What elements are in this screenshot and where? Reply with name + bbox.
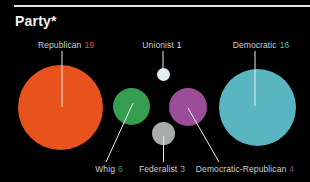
party-name: Federalist [139,164,177,174]
party-bubble-chart: Party* Republican19 Unionist1 Democratic… [0,0,310,182]
label-democratic-republican: Democratic-Republican4 [196,164,294,174]
label-republican: Republican19 [38,40,94,50]
party-name: Democratic [233,40,277,50]
label-whig: Whig6 [95,164,123,174]
top-rule [14,5,310,7]
party-count: 1 [177,40,182,50]
party-count: 4 [289,164,294,174]
bubble-unionist [157,68,170,81]
bubble-federalist [152,122,175,145]
label-democratic: Democratic16 [233,40,290,50]
chart-title: Party* [15,13,57,29]
party-name: Whig [95,164,115,174]
party-name: Unionist [142,40,174,50]
party-count: 16 [280,40,290,50]
bubble-republican [18,65,103,150]
label-federalist: Federalist3 [139,164,185,174]
bubble-democratic [219,69,296,146]
label-unionist: Unionist1 [142,40,181,50]
bubble-democratic-republican [169,88,207,126]
party-name: Democratic-Republican [196,164,286,174]
party-count: 6 [118,164,123,174]
party-count: 19 [84,40,94,50]
party-name: Republican [38,40,82,50]
party-count: 3 [180,164,185,174]
bubble-whig [113,88,150,125]
